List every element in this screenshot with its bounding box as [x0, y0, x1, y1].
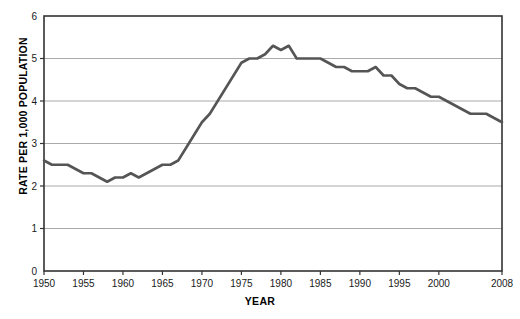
x-tick-label: 1965: [151, 278, 174, 289]
x-tick-label: 1995: [388, 278, 411, 289]
x-tick-labels: 1950195519601965197019751980198519901995…: [33, 271, 514, 289]
y-tick-label: 4: [31, 96, 37, 107]
y-tick-label: 5: [31, 53, 37, 64]
x-tick-label: 1975: [230, 278, 253, 289]
y-tick-label: 2: [31, 181, 37, 192]
x-tick-label: 1955: [72, 278, 95, 289]
y-tick-label: 1: [31, 223, 37, 234]
x-tick-label: 2008: [491, 278, 514, 289]
series-path: [44, 46, 502, 182]
chart-figure: RATE PER 1,000 POPULATION YEAR 0123456 1…: [0, 0, 520, 319]
x-tick-label: 1960: [112, 278, 135, 289]
y-tick-label: 0: [31, 266, 37, 277]
data-series-line: [44, 46, 502, 182]
y-tick-label: 3: [31, 138, 37, 149]
x-tick-label: 1990: [349, 278, 372, 289]
x-tick-label: 1985: [309, 278, 332, 289]
x-tick-label: 1950: [33, 278, 56, 289]
line-chart-plot: 0123456 19501955196019651970197519801985…: [0, 0, 520, 319]
y-tick-label: 6: [31, 11, 37, 22]
gridlines: [44, 59, 502, 229]
y-tick-labels: 0123456: [31, 11, 44, 277]
x-tick-label: 2000: [428, 278, 451, 289]
x-tick-label: 1970: [191, 278, 214, 289]
x-tick-label: 1980: [270, 278, 293, 289]
